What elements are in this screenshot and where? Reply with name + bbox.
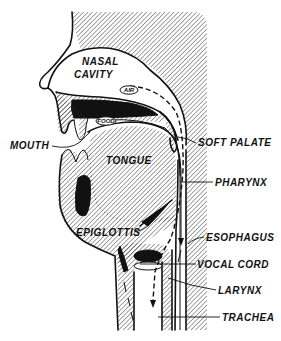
vocal-cord-label: VOCAL CORD bbox=[197, 259, 269, 270]
esophagus-label: ESOPHAGUS bbox=[206, 232, 274, 243]
trachea-label: TRACHEA bbox=[222, 312, 274, 323]
pharynx-label: PHARYNX bbox=[215, 177, 268, 188]
air-tag: AIR bbox=[120, 86, 138, 94]
tongue bbox=[88, 122, 180, 223]
nasal-cavity-label-line1: NASAL bbox=[82, 56, 119, 67]
tongue-label: TONGUE bbox=[106, 155, 152, 166]
nasal-cavity-label-line2: CAVITY bbox=[74, 69, 114, 80]
mouth-label: MOUTH bbox=[10, 140, 49, 151]
air-label: AIR bbox=[123, 87, 135, 93]
respiratory-digestive-diagram: AIR FOOD NASAL CAVITY MOUTH TONGUE SOFT … bbox=[0, 0, 281, 341]
epiglottis-label: EPIGLOTTIS bbox=[76, 227, 140, 238]
food-label: FOOD bbox=[97, 118, 115, 124]
food-tag: FOOD bbox=[96, 117, 116, 125]
larynx-label: LARYNX bbox=[218, 285, 263, 296]
soft-palate-label: SOFT PALATE bbox=[198, 137, 271, 148]
